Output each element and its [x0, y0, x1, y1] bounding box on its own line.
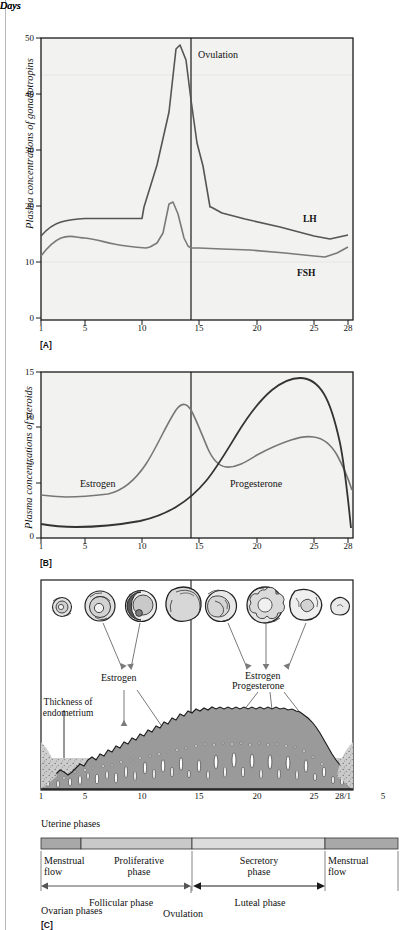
follicle-primordial-icon	[53, 598, 72, 617]
panel-c-estrogen-follicular-label: Estrogen	[101, 672, 137, 683]
thickness-label-line1: Thickness of	[44, 697, 93, 707]
panel-c-xtick-10: 10	[133, 791, 151, 801]
panel-c-xtick-15: 15	[190, 791, 208, 801]
corpus-luteum-early-icon	[206, 590, 237, 622]
panel-c: Thickness of endometrium Estrogen Estrog…	[0, 0, 407, 930]
uterine-phase-label-proliferative: Proliferative phase	[91, 855, 187, 877]
uterine-phase-label-menstrual-1: Menstrual flow	[44, 855, 90, 877]
luteal-arrow-head-right	[317, 882, 325, 890]
panel-c-tag: [C]	[41, 920, 53, 930]
phase-secretory-line1: Secretory	[240, 855, 278, 866]
ovarian-phases-label: Ovarian phases	[41, 905, 102, 916]
follicle-primary-icon	[85, 591, 115, 621]
uterine-phase-bar	[41, 838, 398, 849]
uterine-phase-label-menstrual-2: Menstrual flow	[328, 855, 398, 877]
corpus-albicans-icon	[331, 597, 350, 615]
follicle-antral-icon	[126, 591, 157, 622]
panel-c-xtick-25: 25	[305, 791, 323, 801]
panel-c-xtick-5b: 5	[374, 791, 392, 801]
panel-c-xtick-5: 5	[76, 791, 94, 801]
uterine-phase-label-secretory: Secretory phase	[196, 855, 322, 877]
panel-c-xtick-1: 1	[32, 791, 50, 801]
phase-menstrual-2-line1: Menstrual	[328, 855, 369, 866]
follicular-arrow-head-left	[41, 883, 48, 890]
uterine-phases-label: Uterine phases	[41, 818, 100, 829]
phase-bar-menstrual-1	[41, 838, 81, 849]
phase-bar-menstrual-2	[325, 838, 398, 849]
figure-page: Plasma concentrations of gonadotropins 5…	[0, 0, 407, 930]
phase-secretory-line2: phase	[248, 866, 271, 877]
thickness-label-line2: endometrium	[43, 708, 94, 718]
phase-menstrual-2-line2: flow	[328, 866, 346, 877]
panel-c-progesterone-luteal-label: Progesterone	[232, 680, 284, 691]
phase-proliferative-line1: Proliferative	[114, 855, 164, 866]
thickness-of-endometrium-label: Thickness of endometrium	[22, 697, 114, 719]
phase-proliferative-line2: phase	[128, 866, 151, 877]
panel-c-xtick-20: 20	[248, 791, 266, 801]
follicular-arrow-head-right	[184, 883, 191, 890]
luteal-arrow-head-left	[193, 882, 201, 890]
phase-menstrual-1-line2: flow	[44, 866, 62, 877]
follicle-graafian-icon	[166, 587, 201, 621]
panel-c-xtick-28-1: 28/1	[330, 791, 356, 801]
corpus-luteum-regressing-icon	[290, 589, 322, 620]
phase-bar-secretory	[192, 838, 325, 849]
ovarian-phase-label-luteal: Luteal phase	[215, 897, 305, 908]
phase-menstrual-1-line1: Menstrual	[44, 855, 85, 866]
panel-c-ovulation-label: Ovulation	[163, 908, 203, 919]
phase-bar-proliferative	[81, 838, 192, 849]
